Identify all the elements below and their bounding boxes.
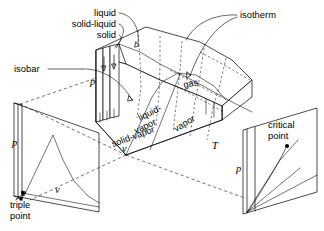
solid-band-face (96, 48, 103, 122)
callout-label-liquid: liquid (94, 7, 116, 18)
surface-T-axis-label: T (212, 140, 219, 151)
left-panel-plane (14, 103, 99, 212)
callout-label-critical-point-line2: point (268, 130, 289, 141)
callout-label-isobar: isobar (14, 63, 40, 74)
callout-label-isotherm: isotherm (240, 9, 276, 20)
callout-label-critical-point-line1: critical (268, 119, 295, 130)
callout-label-triple-point-line2: point (10, 210, 31, 221)
pvt-surface-figure: p v (0, 0, 324, 231)
callout-label-triple-point-line1: triple (10, 199, 30, 210)
callout-label-solid: solid (97, 29, 116, 40)
left-panel-pv-diagram: p v (11, 103, 99, 212)
liquid-band-face (110, 44, 119, 118)
callout-label-solid-liquid: solid-liquid (72, 18, 116, 29)
base-diagonal-right (126, 155, 250, 200)
critical-point-marker (285, 144, 289, 148)
left-panel-v-axis-label: v (55, 184, 60, 195)
right-panel-p-axis-label: p (235, 163, 241, 174)
left-panel-p-axis-label: p (11, 137, 17, 148)
surface-p-axis-label: p (89, 76, 95, 87)
pvt-diagram-canvas: p v (0, 0, 324, 231)
